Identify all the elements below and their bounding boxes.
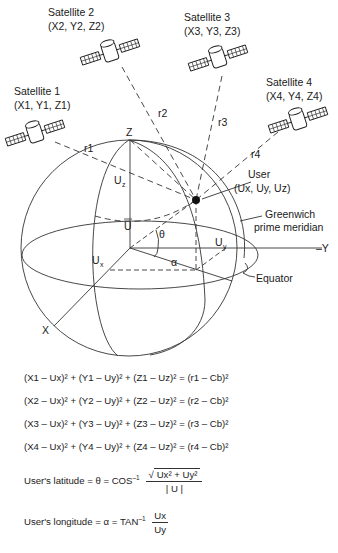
axes (54, 140, 322, 326)
satellite-3-name: Satellite 3 (184, 11, 230, 23)
satellite-4-coords: (X4, Y4, Z4) (266, 90, 322, 102)
user-label: User (248, 168, 271, 180)
range-lines (55, 67, 278, 200)
user-position-marker (192, 196, 200, 204)
longitude-prefix: User's longitude = α = TAN (24, 516, 138, 527)
svg-text:z: z (122, 181, 126, 188)
user-coords: (Ux, Uy, Uz) (234, 182, 290, 194)
alpha-label: α (171, 256, 177, 268)
range-equation-3: (X3 – Ux)² + (Y3 – Uy)² + (Z3 – Uz)² = (… (24, 418, 228, 429)
y-axis-label: –Y (316, 242, 329, 254)
range-r2-label: r2 (158, 107, 167, 119)
range-equation-1: (X1 – Ux)² + (Y1 – Uy)² + (Z1 – Uz)² = (… (24, 372, 228, 383)
latitude-numerator: Ux² + Uy² (154, 468, 201, 480)
range-r4-label: r4 (251, 148, 260, 160)
satellite-3-icon (186, 37, 250, 76)
latitude-formula: User's latitude = θ = COS–1 √Ux² + Uy² |… (24, 469, 202, 494)
range-r3-label: r3 (218, 116, 227, 128)
uy-label: U (215, 236, 223, 248)
range-equation-4: (X4 – Ux)² + (Y4 – Uy)² + (Z4 – Uz)² = (… (24, 441, 228, 452)
greenwich-label-2: prime meridian (254, 221, 324, 233)
range-r1-label: r1 (84, 142, 93, 154)
satellite-3-coords: (X3, Y3, Z3) (184, 25, 240, 37)
x-axis-label: X (42, 324, 49, 336)
svg-text:x: x (100, 261, 104, 268)
longitude-formula: User's longitude = α = TAN–1 Ux Uy (24, 510, 168, 535)
satellite-1-coords: (X1, Y1, Z1) (14, 99, 70, 111)
range-equation-2: (X2 – Ux)² + (Y2 – Uy)² + (Z2 – Uz)² = (… (24, 395, 228, 406)
satellite-2-name: Satellite 2 (48, 6, 94, 18)
satellite-1-name: Satellite 1 (14, 85, 60, 97)
longitude-denominator: Uy (152, 523, 168, 535)
satellite-4-name: Satellite 4 (266, 76, 312, 88)
satellite-4-icon (266, 99, 330, 138)
uz-label: U (114, 174, 122, 186)
theta-label: θ (159, 228, 165, 240)
latitude-prefix: User's latitude = θ = COS (24, 475, 132, 486)
u-vector-label: U (124, 220, 132, 232)
satellite-2-coords: (X2, Y2, Z2) (48, 20, 104, 32)
z-axis-label: Z (126, 126, 133, 138)
latitude-denominator: | U | (146, 482, 202, 494)
greenwich-label-1: Greenwich (265, 208, 315, 220)
longitude-numerator: Ux (152, 510, 168, 523)
satellite-1-icon (3, 112, 67, 151)
svg-text:y: y (223, 243, 227, 251)
equator-label: Equator (256, 272, 293, 284)
ux-label: U (92, 254, 100, 266)
satellite-2-icon (78, 31, 142, 70)
